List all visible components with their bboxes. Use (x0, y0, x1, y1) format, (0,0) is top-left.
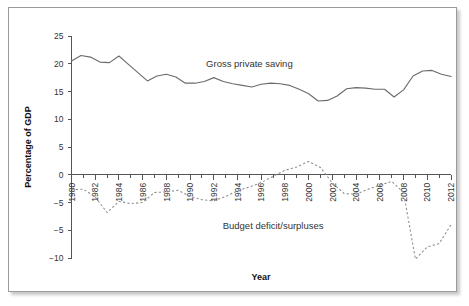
y-axis-ticks: 2520151050−5−5−10 (49, 31, 71, 263)
y-axis-tick-label: 5 (59, 142, 64, 152)
x-axis-tick-label: 1982 (90, 182, 100, 201)
x-axis-ticks (72, 175, 452, 180)
x-axis-tick-label: 1992 (209, 182, 219, 201)
y-axis-tick-label: 20 (54, 59, 64, 69)
x-axis-tick-label: 1990 (185, 182, 195, 201)
x-axis-tick-labels: 1980198219841986198819901992199419961998… (67, 182, 457, 201)
y-axis-tick-label: 15 (54, 87, 64, 97)
y-axis-tick-label: 25 (54, 31, 64, 41)
x-axis-tick-label: 2012 (446, 182, 456, 201)
x-axis-tick-label: 1996 (256, 182, 266, 201)
y-axis-tick-label: 0 (59, 170, 64, 180)
y-axis-title: Percentage of GDP (23, 106, 33, 188)
chart-plot-area: 2520151050−5−5−10 1980198219841986198819… (9, 8, 458, 293)
x-axis-tick-label: 2002 (328, 182, 338, 201)
y-axis-tick-label: −5 (54, 225, 64, 235)
x-axis-tick-label: 1988 (162, 182, 172, 201)
annotation-budget-deficit-surpluses: Budget deficit/surpluses (223, 220, 324, 231)
line-chart: 2520151050−5−5−10 1980198219841986198819… (9, 8, 458, 293)
x-axis-tick-label: 2000 (304, 182, 314, 201)
x-axis-tick-label: 1984 (114, 182, 124, 201)
annotation-gross-private-saving: Gross private saving (206, 58, 293, 69)
x-axis-tick-label: 1998 (280, 182, 290, 201)
x-axis-tick-label: 2006 (375, 182, 385, 201)
x-axis-tick-label: 2010 (422, 182, 432, 201)
y-axis-tick-label: −5 (54, 198, 64, 208)
figure-root: 2520151050−5−5−10 1980198219841986198819… (0, 0, 469, 306)
y-axis-tick-label: −10 (49, 253, 64, 263)
y-axis-tick-label: 10 (54, 114, 64, 124)
figure-frame: 2520151050−5−5−10 1980198219841986198819… (8, 7, 457, 292)
x-axis-title: Year (251, 272, 271, 282)
x-axis-tick-label: 1980 (67, 182, 77, 201)
x-axis-tick-label: 1986 (138, 182, 148, 201)
